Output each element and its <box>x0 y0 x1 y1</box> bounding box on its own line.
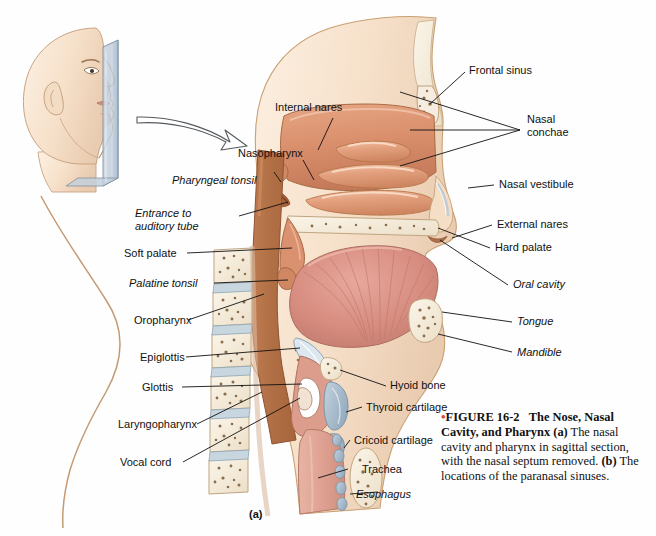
nasal-conchae <box>306 141 434 215</box>
figure-canvas: Internal nares Nasopharynx Pharyngeal to… <box>0 0 656 536</box>
label-internal-nares: Internal nares <box>275 101 342 113</box>
label-nasal-conchae-line2: conchae <box>527 126 569 138</box>
label-nasal-conchae-line1: Nasal <box>527 113 555 125</box>
label-glottis: Glottis <box>142 381 173 393</box>
label-mandible: Mandible <box>517 346 562 358</box>
glottis <box>298 378 320 418</box>
palatine-tonsil <box>278 268 296 290</box>
label-thyroid-cartilage: Thyroid cartilage <box>366 401 447 413</box>
prevertebral-tissue <box>252 246 268 516</box>
label-vocal-cord: Vocal cord <box>120 456 171 468</box>
panel-letter-a: (a) <box>249 508 262 520</box>
nasal-vestibule <box>429 176 453 232</box>
label-auditory-tube-line1: Entrance to <box>135 207 191 219</box>
soft-palate <box>280 218 305 279</box>
pharynx-channel <box>251 150 296 444</box>
label-nasopharynx: Nasopharynx <box>238 147 303 159</box>
label-esophagus: Esophagus <box>356 488 411 500</box>
nasopharynx <box>259 152 262 216</box>
larynx-interior <box>291 356 334 436</box>
label-auditory-tube-line2: auditory tube <box>135 220 199 232</box>
hard-palate <box>287 216 439 236</box>
head-profile-inset <box>23 28 118 192</box>
label-oral-cavity: Oral cavity <box>513 278 565 290</box>
cervical-vertebrae <box>209 248 252 494</box>
caption-part-b-marker: (b) <box>601 454 616 468</box>
label-tongue: Tongue <box>517 315 553 327</box>
vocal-cord <box>297 388 312 410</box>
hyoid-bone <box>320 358 342 380</box>
auditory-tube-entrance <box>270 192 290 207</box>
mouth-floor-bone <box>295 339 310 362</box>
pharyngeal-tonsil <box>267 161 288 182</box>
label-palatine-tonsil: Palatine tonsil <box>129 277 198 289</box>
label-laryngopharynx: Laryngopharynx <box>118 418 197 430</box>
caption-part-a-marker: (a) <box>553 425 567 439</box>
label-epiglottis: Epiglottis <box>140 351 185 363</box>
tongue <box>290 246 438 348</box>
sagittal-plane <box>66 40 118 186</box>
label-frontal-sinus: Frontal sinus <box>469 64 532 76</box>
curved-pointer-arrow <box>137 117 247 150</box>
neck-outline <box>41 196 120 528</box>
label-hard-palate: Hard palate <box>495 241 552 253</box>
label-oropharynx: Oropharynx <box>134 314 191 326</box>
label-trachea: Trachea <box>362 463 402 475</box>
label-external-nares: External nares <box>497 218 568 230</box>
external-nares <box>428 236 447 242</box>
thyroid-cartilage <box>324 382 348 430</box>
figure-caption: •FIGURE 16-2 The Nose, Nasal Cavity, and… <box>441 409 646 484</box>
label-cricoid-cartilage: Cricoid cartilage <box>354 434 433 446</box>
cricoid-cartilage <box>325 434 345 460</box>
label-pharyngeal-tonsil: Pharyngeal tonsil <box>172 174 256 186</box>
caption-number: FIGURE 16-2 <box>446 410 520 424</box>
label-nasal-vestibule: Nasal vestibule <box>499 178 574 190</box>
frontal-sinus <box>417 86 439 125</box>
mandible <box>409 299 443 343</box>
trachea <box>299 430 348 515</box>
tracheal-rings <box>332 434 347 511</box>
epiglottis <box>294 338 328 376</box>
label-soft-palate: Soft palate <box>124 247 177 259</box>
label-hyoid-bone: Hyoid bone <box>390 379 446 391</box>
